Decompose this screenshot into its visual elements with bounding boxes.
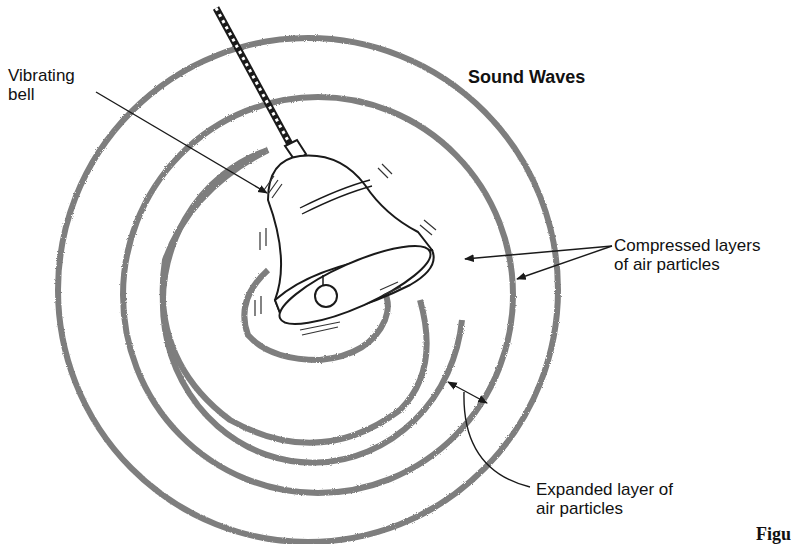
label-expanded-layer: Expanded layer of air particles bbox=[536, 480, 673, 518]
figure-caption-fragment: Figu bbox=[756, 524, 791, 544]
bell-icon bbox=[268, 140, 439, 338]
expanded-leader-curve bbox=[464, 392, 530, 487]
diagram-title: Sound Waves bbox=[468, 68, 585, 87]
label-vibrating-bell: Vibrating bell bbox=[8, 66, 75, 104]
compressed-arrow-2 bbox=[517, 246, 612, 279]
compressed-arrow-1 bbox=[465, 246, 612, 259]
bell-rope bbox=[216, 8, 292, 148]
bell-pointer-arrow bbox=[96, 92, 267, 193]
expanded-width-arrow bbox=[448, 382, 487, 403]
label-compressed-layers: Compressed layers of air particles bbox=[614, 236, 760, 274]
